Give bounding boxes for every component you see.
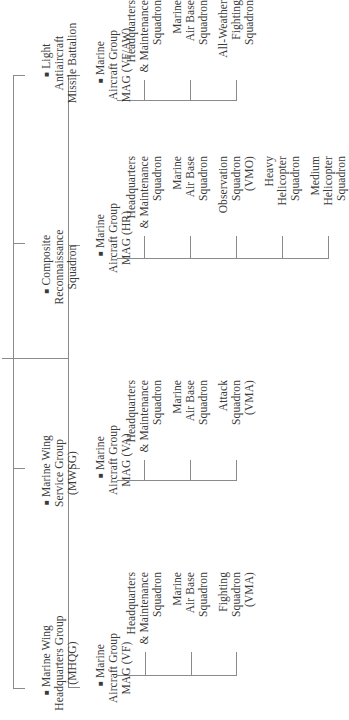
stub-vf-1 bbox=[145, 652, 146, 675]
squadron-hr-heavy: Heavy Helicopter Squadron bbox=[263, 156, 302, 234]
bullet-icon: ■ bbox=[96, 681, 105, 686]
connector-laam bbox=[13, 75, 25, 76]
squadron-hr-medium: Medium Helicopter Squadron bbox=[309, 156, 348, 234]
stub-vfaw-1 bbox=[144, 80, 145, 100]
unit-laam: ■Light Antiaircraft Missile Battalion bbox=[27, 8, 79, 118]
squadron-hr-mabs: Marine Air Base Squadron bbox=[171, 156, 210, 234]
stub-va-1 bbox=[144, 460, 145, 480]
stub-hr-5 bbox=[328, 236, 329, 258]
bar-mag-va bbox=[117, 480, 237, 481]
stub-hr-2 bbox=[190, 236, 191, 258]
squadron-vf-fighting: Fighting Squadron (VMA) bbox=[217, 572, 256, 650]
aircraft-group-spine bbox=[68, 75, 69, 687]
unit-crs: ■Composite Reconnaissance Squadron bbox=[27, 212, 79, 322]
squadron-hr-vmo: Observation Squadron (VMO) bbox=[217, 156, 256, 234]
stub-vf-3 bbox=[236, 652, 237, 675]
connector-mhqg bbox=[13, 688, 25, 689]
stub-vf-2 bbox=[191, 652, 192, 675]
bullet-icon: ■ bbox=[96, 78, 105, 83]
unit-mhqg: ■Marine Wing Headquarters Group (MHQG) bbox=[27, 608, 79, 718]
stub-hr-4 bbox=[282, 236, 283, 258]
bar-mag-vfaw bbox=[117, 100, 237, 101]
bullet-icon: ■ bbox=[42, 72, 51, 77]
connector-mwsg bbox=[13, 468, 25, 469]
stub-va-2 bbox=[190, 460, 191, 480]
squadron-vfaw-awf: All-Weather Fighting Squadron bbox=[217, 0, 256, 78]
squadron-va-mabs: Marine Air Base Squadron bbox=[171, 380, 210, 458]
bullet-icon: ■ bbox=[42, 288, 51, 293]
parent-connector bbox=[2, 358, 68, 359]
stub-hr-1 bbox=[144, 236, 145, 258]
squadron-va-hms: Headquarters & Maintenance Squadron bbox=[125, 380, 164, 458]
squadron-vfaw-hms: Headquarters & Maintenance Squadron bbox=[125, 0, 164, 78]
top-level-spine bbox=[13, 75, 14, 689]
bullet-icon: ■ bbox=[42, 500, 51, 505]
bullet-icon: ■ bbox=[96, 251, 105, 256]
stub-va-3 bbox=[236, 460, 237, 480]
squadron-vf-mabs: Marine Air Base Squadron bbox=[171, 572, 210, 650]
stub-hr-3 bbox=[236, 236, 237, 258]
stub-vfaw-3 bbox=[236, 80, 237, 100]
unit-mwsg: ■Marine Wing Service Group (MWSG) bbox=[27, 418, 79, 528]
squadron-vf-hms: Headquarters & Maintenance Squadron bbox=[125, 572, 164, 650]
bullet-icon: ■ bbox=[42, 690, 51, 695]
bullet-icon: ■ bbox=[96, 473, 105, 478]
squadron-va-attack: Attack Squadron (VMA) bbox=[217, 380, 256, 458]
bar-mag-vf bbox=[117, 675, 237, 676]
squadron-hr-hms: Headquarters & Maintenance Squadron bbox=[125, 156, 164, 234]
squadron-vfaw-mabs: Marine Air Base Squadron bbox=[171, 0, 210, 78]
bar-mag-hr bbox=[117, 258, 329, 259]
stub-vfaw-2 bbox=[190, 80, 191, 100]
connector-crs bbox=[13, 243, 25, 244]
